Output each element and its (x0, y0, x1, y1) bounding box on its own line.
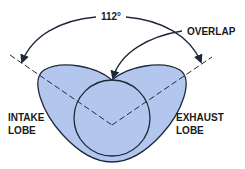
intake-label-line2: LOBE (8, 125, 36, 136)
intake-label-line1: INTAKE (8, 112, 45, 123)
angle-arc-left (22, 17, 96, 62)
overlap-label: OVERLAP (187, 26, 236, 37)
exhaust-label-line1: EXHAUST (176, 112, 224, 123)
angle-label: 112° (101, 11, 121, 22)
cam-lobe-diagram: 112° OVERLAP INTAKE LOBE EXHAUST LOBE (0, 0, 245, 169)
exhaust-label-line2: LOBE (176, 125, 204, 136)
angle-arc-right (126, 17, 201, 62)
